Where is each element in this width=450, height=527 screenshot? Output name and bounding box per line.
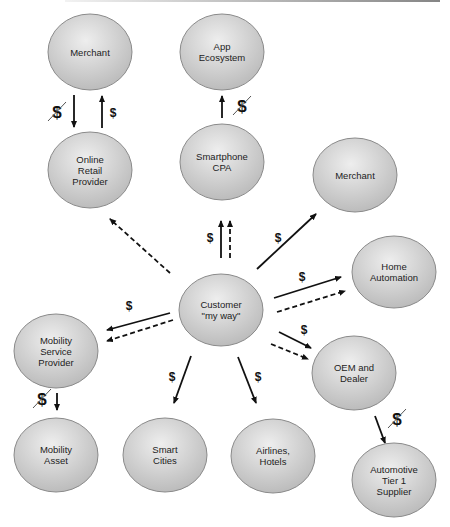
node-label-line: App xyxy=(214,41,231,52)
node-label-line: Tier 1 xyxy=(382,475,406,486)
node-label-line: Home xyxy=(381,261,406,272)
svg-text:$: $ xyxy=(207,231,214,245)
node-oem-and-dealer: OEM andDealer xyxy=(312,336,396,410)
node-app-ecosystem: AppEcosystem xyxy=(180,14,264,90)
money-icon-customer-to-smart-cities-money: $ xyxy=(169,370,176,384)
svg-text:$: $ xyxy=(110,106,117,120)
svg-text:$: $ xyxy=(392,410,402,429)
node-online-retail-provider: OnlineRetailProvider xyxy=(48,132,132,208)
edge-customer-to-oem-dashed-arrow xyxy=(271,344,308,359)
node-label-line: Supplier xyxy=(377,486,412,497)
svg-text:$: $ xyxy=(37,390,47,409)
node-label-line: Retail xyxy=(78,165,102,176)
node-label-line: Provider xyxy=(38,357,73,368)
no-money-icon-merchant-to-online-retail-money: $ xyxy=(48,102,66,122)
edge-customer-to-smart-cities-arrow xyxy=(174,356,191,403)
svg-text:$: $ xyxy=(52,103,62,122)
node-label-line: Mobility xyxy=(40,335,72,346)
node-label-line: Mobility xyxy=(40,444,72,455)
svg-text:$: $ xyxy=(299,270,306,284)
node-label-line: Smartphone xyxy=(196,151,248,162)
node-label-line: Airlines, xyxy=(256,445,290,456)
node-mobility-service-provider: MobilityServiceProvider xyxy=(14,314,98,388)
node-smart-cities: SmartCities xyxy=(123,418,207,492)
money-icon-customer-to-mobility-service-money: $ xyxy=(126,299,133,313)
svg-text:$: $ xyxy=(169,370,176,384)
money-icon-online-retail-to-merchant-money: $ xyxy=(110,106,117,120)
node-label-line: "my way" xyxy=(202,310,241,321)
node-label-line: Automotive xyxy=(370,464,418,475)
node-label-line: OEM and xyxy=(334,362,374,373)
svg-text:$: $ xyxy=(255,370,262,384)
node-merchant-right: Merchant xyxy=(313,138,397,212)
node-label-line: CPA xyxy=(213,162,232,173)
node-label-line: Dealer xyxy=(340,373,368,384)
node-airlines-hotels: Airlines,Hotels xyxy=(231,419,315,493)
no-money-icon-smartphone-to-app-ecosystem-money: $ xyxy=(233,96,251,116)
node-label-line: Smart xyxy=(152,444,178,455)
node-automotive-tier-1-supplier: AutomotiveTier 1Supplier xyxy=(352,443,436,517)
edge-customer-to-merchant-right-arrow xyxy=(257,214,316,269)
edge-customer-to-mobility-service-solid-arrow xyxy=(107,313,170,330)
node-label-line: Cities xyxy=(153,455,177,466)
node-customer: Customer"my way" xyxy=(179,274,263,346)
node-label-line: Online xyxy=(76,154,103,165)
money-icon-customer-to-home-automation-money: $ xyxy=(299,270,306,284)
edge-oem-to-tier1-supplier-arrow xyxy=(375,416,385,443)
node-mobility-asset: MobilityAsset xyxy=(14,418,98,492)
money-icon-customer-to-merchant-right-money: $ xyxy=(275,231,282,245)
svg-text:$: $ xyxy=(126,299,133,313)
no-money-icon-oem-to-tier1-money: $ xyxy=(388,409,406,429)
node-label-line: Customer xyxy=(200,299,241,310)
node-label-line: Merchant xyxy=(70,47,110,58)
money-icon-customer-to-smartphone-money: $ xyxy=(207,231,214,245)
node-label-line: Merchant xyxy=(335,170,375,181)
edge-customer-to-online-retail-arrow xyxy=(110,219,170,273)
value-network-diagram: MerchantAppEcosystemOnlineRetailProvider… xyxy=(0,0,450,527)
edge-customer-to-mobility-service-dashed-arrow xyxy=(107,320,173,341)
node-smartphone-cpa: SmartphoneCPA xyxy=(180,124,264,200)
node-label-line: Hotels xyxy=(260,456,287,467)
nodes-layer: MerchantAppEcosystemOnlineRetailProvider… xyxy=(14,14,436,517)
node-label-line: Ecosystem xyxy=(199,52,246,63)
money-icon-customer-to-airlines-hotels-money: $ xyxy=(255,370,262,384)
node-label-line: Provider xyxy=(72,176,107,187)
money-icon-customer-to-oem-money: $ xyxy=(301,323,308,337)
svg-text:$: $ xyxy=(275,231,282,245)
no-money-icon-mobility-service-to-asset-money: $ xyxy=(33,389,51,409)
node-home-automation: HomeAutomation xyxy=(352,236,436,308)
svg-text:$: $ xyxy=(301,323,308,337)
node-merchant-top: Merchant xyxy=(48,14,132,90)
node-label-line: Service xyxy=(40,346,72,357)
node-label-line: Automation xyxy=(370,272,418,283)
node-label-line: Asset xyxy=(44,455,68,466)
edge-customer-to-airlines-hotels-arrow xyxy=(238,357,256,403)
svg-text:$: $ xyxy=(237,97,247,116)
